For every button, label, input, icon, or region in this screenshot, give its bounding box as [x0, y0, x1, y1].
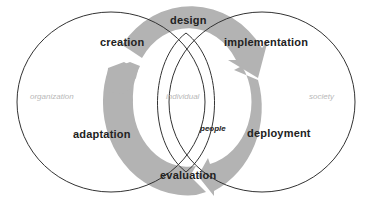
circle-label-individual: individual: [166, 92, 199, 101]
phase-design: design: [170, 14, 207, 26]
circle-label-organization: organization: [30, 92, 74, 101]
circle-label-society: society: [309, 92, 334, 101]
phase-creation: creation: [100, 36, 144, 48]
center-label-people: people: [200, 124, 226, 133]
phase-deployment: deployment: [247, 127, 311, 139]
phase-evaluation: evaluation: [160, 169, 216, 181]
cycle-ring: [103, 6, 268, 196]
phase-implementation: implementation: [224, 36, 308, 48]
phase-adaptation: adaptation: [73, 128, 131, 140]
